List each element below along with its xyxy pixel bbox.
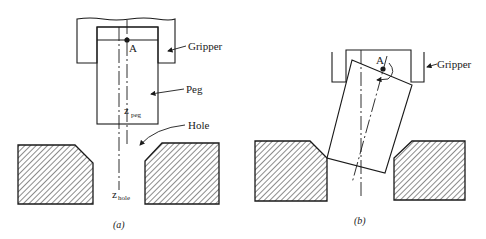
- z-peg-axis-b: [352, 56, 387, 183]
- point-a-marker-b: [380, 66, 385, 71]
- panel-a: A z peg z hole Gripper Peg Hole (a): [18, 18, 223, 231]
- z-hole-subscript: hole: [118, 194, 130, 202]
- gripper-label-a: Gripper: [188, 40, 223, 52]
- peg-label: Peg: [186, 83, 203, 95]
- panel-b: A Gripper (b): [255, 50, 472, 227]
- z-peg-subscript: peg: [131, 111, 142, 119]
- hole-label: Hole: [188, 119, 210, 131]
- caption-a: (a): [113, 219, 125, 231]
- hole-block-left-b: [255, 141, 327, 201]
- peg-in-hole-diagram: A z peg z hole Gripper Peg Hole (a) A: [0, 0, 486, 239]
- hole-block-left-a: [18, 145, 93, 204]
- point-a-label-b: A: [376, 54, 384, 66]
- hole-block-right-b: [394, 141, 465, 200]
- z-hole-label: z: [112, 188, 117, 200]
- point-a-label: A: [129, 42, 137, 54]
- caption-b: (b): [354, 215, 366, 227]
- z-peg-label: z: [124, 104, 129, 116]
- hole-block-right-a: [145, 143, 219, 204]
- gripper-label-b: Gripper: [437, 58, 472, 70]
